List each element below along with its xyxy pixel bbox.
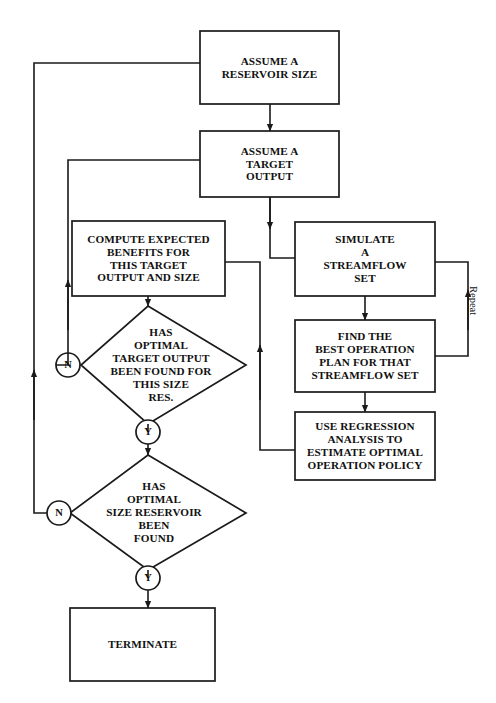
flowchart-canvas: ASSUME A RESERVOIR SIZE ASSUME A TARGET … [0, 0, 496, 703]
node-assume-reservoir-size [200, 31, 339, 104]
flowchart-graphics [0, 0, 496, 703]
node-decision-size-reservoir [70, 455, 246, 570]
label-repeat-loop: Repeat [468, 286, 479, 315]
node-use-regression-analysis [295, 412, 435, 480]
connector-size-reservoir-no [47, 501, 71, 525]
node-find-best-operation-plan [295, 320, 435, 392]
node-terminate [70, 608, 215, 681]
node-decision-target-output [81, 306, 246, 424]
node-assume-target-output [200, 131, 339, 197]
edge-target-to-simulate [270, 197, 295, 258]
node-compute-expected-benefits [72, 221, 225, 296]
edge-repeat-loop [435, 262, 468, 356]
node-simulate-streamflow-set [295, 222, 435, 296]
